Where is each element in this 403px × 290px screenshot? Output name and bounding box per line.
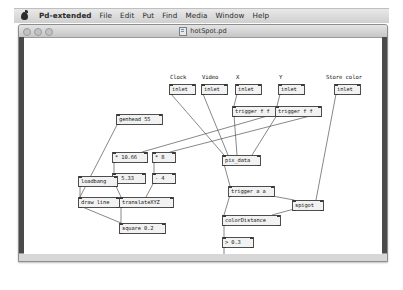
pd-object-nub-tl[interactable]	[335, 84, 338, 86]
pd-object-nub-tl[interactable]	[223, 215, 226, 217]
pd-object-nub-tl[interactable]	[113, 152, 116, 154]
pd-object-nub-tr[interactable]	[144, 152, 147, 154]
pd-object-nub-br[interactable]	[258, 94, 261, 96]
pd-object-pix-data[interactable]: pix_data	[222, 155, 261, 166]
patch-cord[interactable]	[234, 115, 237, 155]
pd-object-color-distance[interactable]: colorDistance	[222, 215, 281, 226]
pd-object-nub-br[interactable]	[142, 183, 145, 185]
menu-item-edit[interactable]: Edit	[116, 9, 138, 23]
pd-object-nub-tl[interactable]	[170, 84, 173, 86]
pd-object-nub-bl[interactable]	[120, 233, 123, 235]
menu-item-media[interactable]: Media	[181, 9, 211, 23]
pd-object-nub-tr[interactable]	[170, 197, 173, 199]
pd-object-nub-bl[interactable]	[236, 94, 239, 96]
pd-object-nub-br[interactable]	[318, 116, 321, 118]
pd-object-nub-bl[interactable]	[79, 186, 82, 188]
pd-object-nub-bl[interactable]	[153, 183, 156, 185]
patch-cord[interactable]	[170, 115, 314, 152]
pd-object-nub-tl[interactable]	[117, 114, 120, 116]
pd-object-nub-tr[interactable]	[258, 84, 261, 86]
pd-object-nub-bl[interactable]	[120, 207, 123, 209]
pd-object-translate-xyz[interactable]: translateXYZ	[119, 197, 174, 208]
pd-object-nub-tr[interactable]	[301, 84, 304, 86]
pd-object-nub-tl[interactable]	[233, 106, 236, 108]
pd-object-nub-tl[interactable]	[120, 197, 123, 199]
pd-object-nub-tl[interactable]	[113, 173, 116, 175]
pd-object-nub-tl[interactable]	[153, 152, 156, 154]
pd-object-nub-tl[interactable]	[223, 155, 226, 157]
pd-object-nub-br[interactable]	[301, 94, 304, 96]
patch-cord[interactable]	[146, 182, 154, 197]
pd-object-multiply-8[interactable]: * 8	[152, 152, 176, 163]
menu-item-pd-extended[interactable]: Pd-extended	[35, 9, 96, 23]
patch-cord[interactable]	[224, 195, 230, 215]
pd-object-nub-tl[interactable]	[120, 223, 123, 225]
pd-object-nub-tl[interactable]	[276, 106, 279, 108]
menu-item-find[interactable]: Find	[158, 9, 181, 23]
menu-item-file[interactable]: File	[96, 9, 116, 23]
pd-object-nub-bl[interactable]	[153, 162, 156, 164]
pd-object-nub-br[interactable]	[192, 94, 195, 96]
patch-cord[interactable]	[203, 94, 228, 155]
pd-object-nub-tl[interactable]	[202, 84, 205, 86]
patch-cord[interactable]	[277, 94, 280, 106]
pd-object-nub-br[interactable]	[162, 233, 165, 235]
menu-item-put[interactable]: Put	[138, 9, 158, 23]
pd-object-nub-br[interactable]	[224, 94, 227, 96]
pd-object-nub-tr[interactable]	[172, 152, 175, 154]
pd-object-genhead-55[interactable]: genhead 55	[116, 114, 163, 125]
pd-object-nub-tr[interactable]	[357, 84, 360, 86]
pd-object-inlet-y[interactable]: inlet	[278, 84, 305, 95]
pd-object-nub-tr[interactable]	[114, 176, 117, 178]
apple-logo-icon[interactable]	[19, 10, 31, 22]
pd-object-loadbang[interactable]: loadbang	[78, 176, 118, 187]
pd-object-nub-bl[interactable]	[117, 124, 120, 126]
patch-cord[interactable]	[252, 115, 277, 155]
pd-object-nub-tl[interactable]	[279, 84, 282, 86]
window-title-bar[interactable]: hotSpot.pd	[19, 25, 387, 38]
pd-object-nub-tr[interactable]	[318, 106, 321, 108]
pd-object-nub-br[interactable]	[159, 124, 162, 126]
pd-object-nub-br[interactable]	[257, 165, 260, 167]
pd-object-draw-line[interactable]: draw line	[78, 197, 120, 208]
patch-cord[interactable]	[224, 164, 230, 186]
pd-object-nub-tr[interactable]	[271, 186, 274, 188]
pd-object-nub-bl[interactable]	[170, 94, 173, 96]
pd-object-nub-bl[interactable]	[276, 116, 279, 118]
pd-object-nub-bl[interactable]	[113, 162, 116, 164]
pd-object-nub-tl[interactable]	[293, 200, 296, 202]
pd-object-nub-br[interactable]	[271, 196, 274, 198]
pd-object-nub-tr[interactable]	[250, 237, 253, 239]
pd-object-nub-bl[interactable]	[223, 165, 226, 167]
pd-object-spigot[interactable]: spigot	[292, 200, 324, 211]
patch-cord[interactable]	[171, 94, 224, 155]
pd-object-trigger-f-f-x[interactable]: trigger f f	[232, 106, 279, 117]
pd-object-nub-tr[interactable]	[172, 173, 175, 175]
pd-canvas[interactable]: inletinletinletinletinlettrigger f ftrig…	[24, 38, 382, 254]
pd-object-nub-tr[interactable]	[277, 215, 280, 217]
pd-object-inlet-clock[interactable]: inlet	[169, 84, 196, 95]
pd-object-nub-br[interactable]	[357, 94, 360, 96]
pd-object-square-0-2[interactable]: square 0.2	[119, 223, 166, 234]
pd-object-greater-0-3[interactable]: > 0.3	[222, 237, 254, 248]
patch-cord[interactable]	[234, 94, 237, 106]
pd-object-inlet-x[interactable]: inlet	[235, 84, 262, 95]
pd-object-nub-bl[interactable]	[79, 207, 82, 209]
pd-object-nub-tr[interactable]	[320, 200, 323, 202]
pd-object-nub-bl[interactable]	[223, 247, 226, 249]
pd-object-nub-bl[interactable]	[279, 94, 282, 96]
pd-object-nub-bl[interactable]	[335, 94, 338, 96]
pd-object-trigger-a-a[interactable]: trigger a a	[228, 186, 275, 197]
pd-object-nub-tl[interactable]	[236, 84, 239, 86]
pd-object-nub-br[interactable]	[250, 247, 253, 249]
pd-object-inlet-video[interactable]: inlet	[201, 84, 228, 95]
pd-object-nub-bl[interactable]	[293, 210, 296, 212]
pd-object-nub-tr[interactable]	[224, 84, 227, 86]
pd-object-nub-tl[interactable]	[153, 173, 156, 175]
pd-object-nub-tl[interactable]	[79, 176, 82, 178]
pd-object-inlet-store-color[interactable]: inlet	[334, 84, 361, 95]
pd-object-nub-br[interactable]	[172, 162, 175, 164]
pd-object-nub-tr[interactable]	[162, 223, 165, 225]
pd-object-nub-br[interactable]	[144, 162, 147, 164]
pd-object-nub-tl[interactable]	[79, 197, 82, 199]
